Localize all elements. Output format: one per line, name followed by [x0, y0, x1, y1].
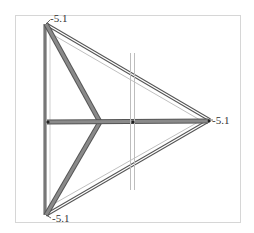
truss-diagram: -5.1 -5.1 -5.1 — [0, 0, 254, 233]
label-right: -5.1 — [212, 114, 229, 126]
node-right — [208, 120, 211, 123]
node-mid-left — [46, 120, 49, 123]
bottom-edge-member — [46, 120, 210, 215]
horizontal-member — [47, 121, 208, 122]
label-top: -5.1 — [50, 12, 67, 24]
node-mid-right — [131, 120, 134, 123]
label-bottom: -5.1 — [52, 212, 69, 224]
